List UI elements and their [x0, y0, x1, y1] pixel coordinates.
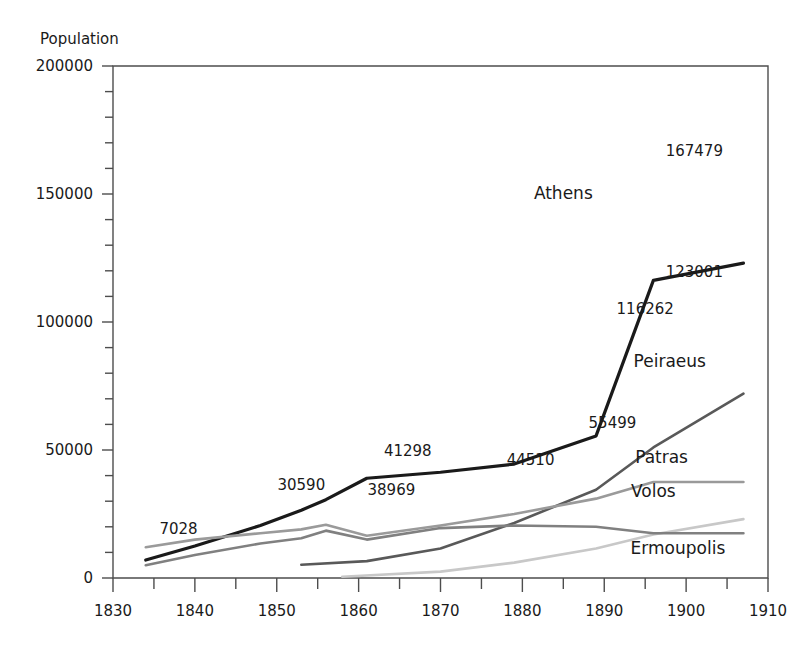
x-tick-label: 1900 [667, 602, 705, 620]
data-point-label: 30590 [277, 476, 325, 494]
data-point-labels: 7028305903896941298445105549911626212300… [159, 142, 723, 539]
y-axis-title: Population [40, 30, 119, 48]
x-tick-label: 1870 [421, 602, 459, 620]
x-tick-label: 1910 [749, 602, 787, 620]
data-point-label: 41298 [384, 442, 432, 460]
x-axis: 183018401850186018701880189019001910 [94, 578, 787, 620]
data-point-label: 123001 [666, 263, 723, 281]
series-label-ermoupolis: Ermoupolis [631, 538, 726, 558]
series-label-patras: Patras [635, 447, 688, 467]
y-tick-label: 50000 [45, 441, 93, 459]
x-tick-label: 1890 [585, 602, 623, 620]
axis-title-group: Population [40, 30, 119, 48]
data-point-label: 167479 [666, 142, 723, 160]
y-tick-label: 200000 [36, 57, 93, 75]
series-label-volos: Volos [631, 481, 676, 501]
data-point-label: 116262 [617, 300, 674, 318]
y-tick-label: 100000 [36, 313, 93, 331]
y-tick-label: 150000 [36, 185, 93, 203]
population-line-chart: Population 050000100000150000200000 1830… [0, 0, 806, 665]
data-point-label: 7028 [159, 520, 197, 538]
x-tick-label: 1840 [176, 602, 214, 620]
data-point-label: 55499 [589, 414, 637, 432]
data-point-label: 38969 [368, 481, 416, 499]
chart-canvas: Population 050000100000150000200000 1830… [0, 0, 806, 665]
series-label-peiraeus: Peiraeus [634, 351, 706, 371]
y-tick-label: 0 [83, 569, 93, 587]
series-label-athens: Athens [534, 183, 593, 203]
x-tick-label: 1830 [94, 602, 132, 620]
x-tick-label: 1880 [503, 602, 541, 620]
series-name-labels: AthensPeiraeusPatrasVolosErmoupolis [534, 183, 726, 558]
x-tick-label: 1850 [258, 602, 296, 620]
data-point-label: 44510 [507, 451, 555, 469]
x-tick-label: 1860 [340, 602, 378, 620]
y-axis: 050000100000150000200000 [36, 57, 113, 587]
